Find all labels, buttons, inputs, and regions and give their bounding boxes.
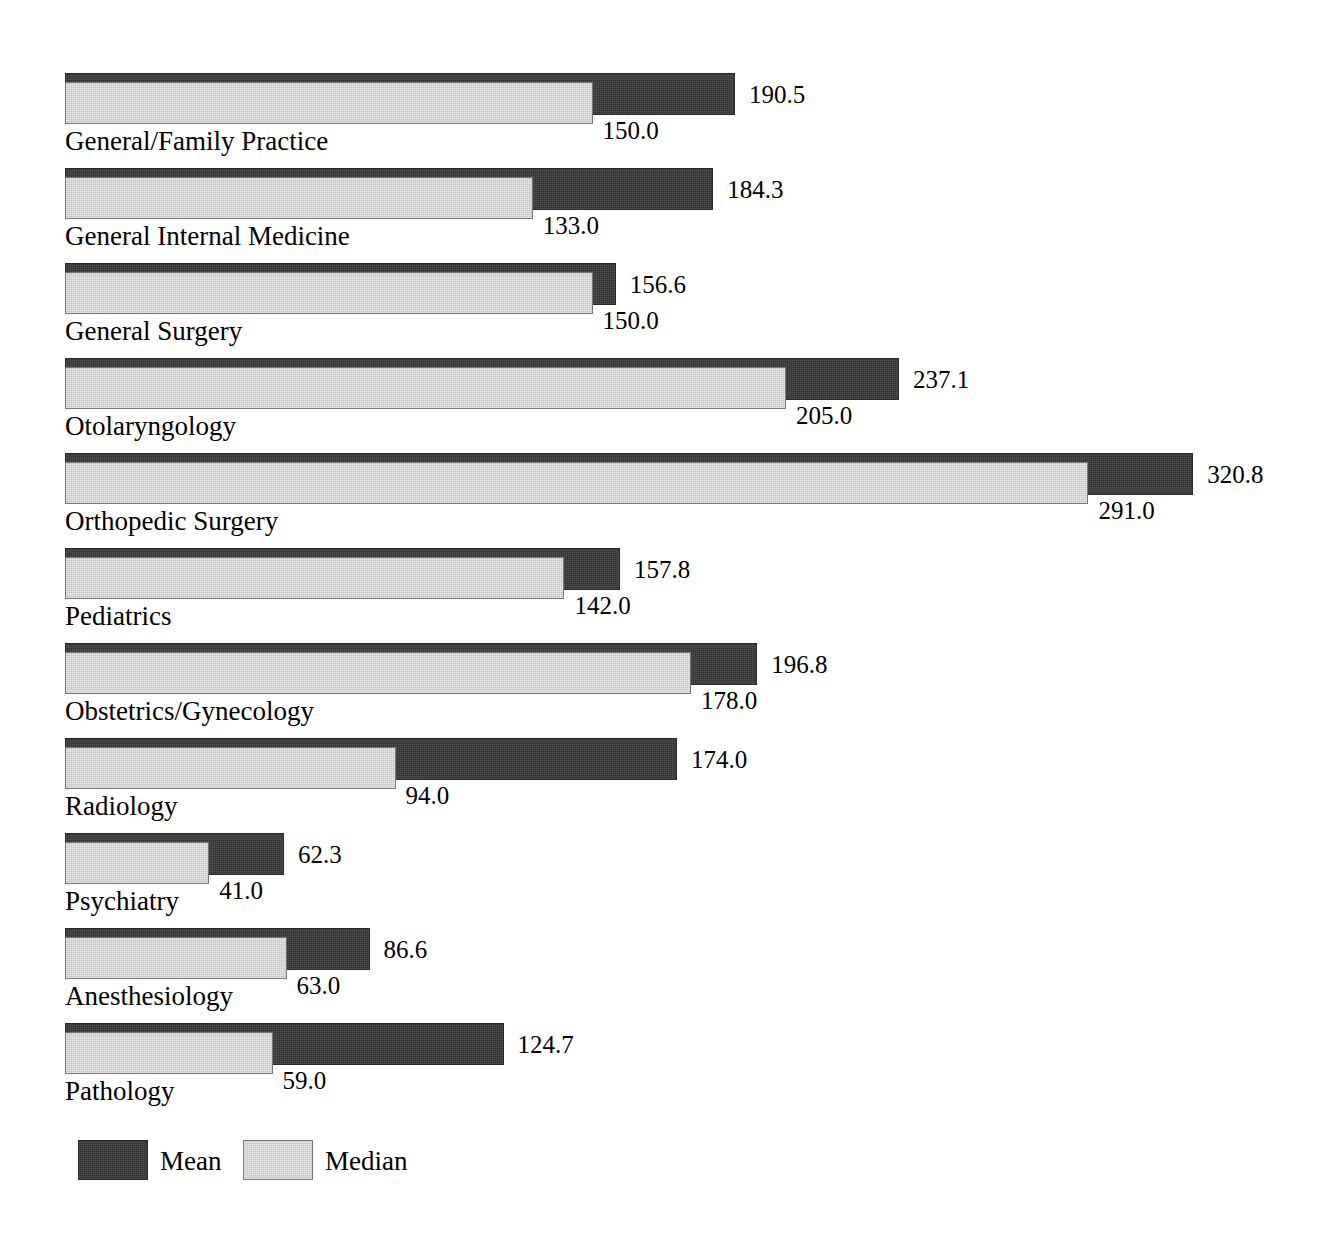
category-label: Pathology	[65, 1076, 175, 1106]
category-label: General Surgery	[65, 316, 242, 346]
category-label: Psychiatry	[65, 886, 179, 916]
value-label-median: 41.0	[219, 878, 263, 903]
legend-label: Mean	[160, 1146, 221, 1176]
bar-group: 86.663.0Anesthesiology	[0, 915, 1326, 1010]
bar-median	[65, 557, 564, 599]
category-label: General/Family Practice	[65, 126, 328, 156]
bar-group: 124.759.0Pathology	[0, 1010, 1326, 1105]
value-label-mean: 157.8	[634, 557, 690, 582]
bar-group: 184.3133.0General Internal Medicine	[0, 155, 1326, 250]
value-label-median: 133.0	[543, 213, 599, 238]
value-label-median: 205.0	[796, 403, 852, 428]
category-label: Pediatrics	[65, 601, 171, 631]
category-label: General Internal Medicine	[65, 221, 350, 251]
value-label-mean: 320.8	[1207, 462, 1263, 487]
value-label-median: 178.0	[701, 688, 757, 713]
value-label-median: 94.0	[406, 783, 450, 808]
bar-median	[65, 82, 593, 124]
value-label-median: 150.0	[603, 308, 659, 333]
value-label-median: 291.0	[1098, 498, 1154, 523]
value-label-mean: 124.7	[518, 1032, 574, 1057]
category-label: Obstetrics/Gynecology	[65, 696, 314, 726]
category-label: Radiology	[65, 791, 178, 821]
bar-median	[65, 652, 691, 694]
value-label-mean: 184.3	[727, 177, 783, 202]
legend-swatch-median	[243, 1140, 313, 1180]
bar-group: 157.8142.0Pediatrics	[0, 535, 1326, 630]
bar-median	[65, 1032, 273, 1074]
value-label-mean: 174.0	[691, 747, 747, 772]
bar-group: 320.8291.0Orthopedic Surgery	[0, 440, 1326, 535]
category-label: Anesthesiology	[65, 981, 233, 1011]
bar-group: 237.1205.0Otolaryngology	[0, 345, 1326, 440]
value-label-mean: 196.8	[771, 652, 827, 677]
value-label-mean: 156.6	[630, 272, 686, 297]
bar-median	[65, 367, 786, 409]
bar-group: 190.5150.0General/Family Practice	[0, 60, 1326, 155]
bar-group: 174.094.0Radiology	[0, 725, 1326, 820]
chart-legend: MeanMedian	[0, 1140, 1326, 1200]
legend-swatch-mean	[78, 1140, 148, 1180]
category-label: Orthopedic Surgery	[65, 506, 278, 536]
bar-median	[65, 842, 209, 884]
bar-group: 156.6150.0General Surgery	[0, 250, 1326, 345]
legend-label: Median	[325, 1146, 407, 1176]
value-label-mean: 190.5	[749, 82, 805, 107]
value-label-mean: 86.6	[384, 937, 428, 962]
bar-group: 62.341.0Psychiatry	[0, 820, 1326, 915]
bar-median	[65, 747, 396, 789]
bar-chart: 190.5150.0General/Family Practice184.313…	[0, 0, 1326, 1255]
value-label-mean: 237.1	[913, 367, 969, 392]
bar-median	[65, 937, 287, 979]
bar-group: 196.8178.0Obstetrics/Gynecology	[0, 630, 1326, 725]
value-label-median: 142.0	[574, 593, 630, 618]
value-label-median: 63.0	[297, 973, 341, 998]
bar-median	[65, 462, 1088, 504]
bar-median	[65, 272, 593, 314]
value-label-median: 150.0	[603, 118, 659, 143]
value-label-mean: 62.3	[298, 842, 342, 867]
value-label-median: 59.0	[283, 1068, 327, 1093]
bar-median	[65, 177, 533, 219]
category-label: Otolaryngology	[65, 411, 236, 441]
